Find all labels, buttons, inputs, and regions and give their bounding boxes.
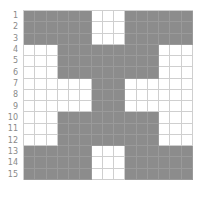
grid-cell-filled — [80, 112, 91, 123]
grid-cell-empty — [159, 45, 170, 56]
grid-cell-filled — [80, 157, 91, 168]
row-label: 7 — [0, 78, 20, 89]
grid-cell-empty — [69, 79, 80, 90]
grid-cell-empty — [35, 101, 46, 112]
grid-cell-empty — [47, 112, 58, 123]
grid-cell-empty — [159, 135, 170, 146]
grid-cell-filled — [182, 11, 193, 22]
grid-cell-filled — [125, 169, 136, 180]
grid-cell-empty — [24, 112, 35, 123]
grid-cell-empty — [24, 67, 35, 78]
grid-cell-filled — [182, 34, 193, 45]
grid-cell-filled — [69, 22, 80, 33]
row-label: 8 — [0, 89, 20, 100]
grid-cell-empty — [80, 79, 91, 90]
row-label: 12 — [0, 135, 20, 146]
grid-cell-filled — [80, 56, 91, 67]
grid-cell-filled — [80, 11, 91, 22]
grid-cell-filled — [80, 169, 91, 180]
grid-cell-filled — [80, 135, 91, 146]
grid-cell-empty — [92, 22, 103, 33]
grid-cell-filled — [114, 67, 125, 78]
grid-cell-filled — [103, 90, 114, 101]
grid-cell-filled — [47, 169, 58, 180]
grid-cell-filled — [35, 22, 46, 33]
grid-cell-empty — [182, 56, 193, 67]
row-label: 1 — [0, 10, 20, 21]
grid-cell-empty — [80, 90, 91, 101]
grid-cell-empty — [47, 79, 58, 90]
grid-cell-empty — [103, 157, 114, 168]
grid-cell-filled — [80, 146, 91, 157]
grid-cell-filled — [58, 112, 69, 123]
row-labels: 123456789101112131415 — [0, 10, 20, 180]
grid-cell-filled — [58, 45, 69, 56]
grid-cell-empty — [58, 101, 69, 112]
grid-cell-filled — [24, 146, 35, 157]
grid-cell-filled — [58, 135, 69, 146]
grid-cell-empty — [148, 90, 159, 101]
grid-cell-filled — [92, 45, 103, 56]
grid-cell-empty — [182, 90, 193, 101]
grid-cell-empty — [114, 169, 125, 180]
grid-cell-filled — [159, 146, 170, 157]
grid-cell-empty — [35, 79, 46, 90]
grid-cell-filled — [92, 112, 103, 123]
grid-cell-empty — [35, 45, 46, 56]
grid-cell-empty — [125, 101, 136, 112]
grid-cell-filled — [137, 34, 148, 45]
grid-cell-filled — [24, 11, 35, 22]
grid-cell-filled — [114, 112, 125, 123]
grid-cell-empty — [159, 112, 170, 123]
grid-cell-filled — [159, 169, 170, 180]
grid-cell-filled — [148, 146, 159, 157]
grid-cell-empty — [47, 90, 58, 101]
row-label: 13 — [0, 146, 20, 157]
grid-cell-empty — [182, 124, 193, 135]
grid-cell-filled — [24, 34, 35, 45]
grid-cell-filled — [92, 56, 103, 67]
grid-cell-filled — [137, 11, 148, 22]
grid-cell-filled — [103, 56, 114, 67]
grid-cell-filled — [148, 124, 159, 135]
grid-cell-filled — [47, 11, 58, 22]
grid-cell-empty — [35, 112, 46, 123]
grid-cell-filled — [148, 67, 159, 78]
grid-cell-filled — [148, 22, 159, 33]
grid-cell-filled — [58, 67, 69, 78]
grid-cell-empty — [159, 124, 170, 135]
grid-cell-empty — [35, 124, 46, 135]
grid-cell-empty — [182, 45, 193, 56]
grid-cell-empty — [47, 56, 58, 67]
grid-cell-filled — [148, 45, 159, 56]
grid-cell-empty — [24, 90, 35, 101]
grid-cell-empty — [80, 101, 91, 112]
grid-cell-empty — [92, 146, 103, 157]
grid-cell-filled — [69, 45, 80, 56]
grid-cell-empty — [170, 45, 181, 56]
grid-cell-empty — [92, 169, 103, 180]
grid-cell-filled — [24, 169, 35, 180]
grid-cell-filled — [103, 124, 114, 135]
grid-cell-empty — [24, 135, 35, 146]
grid-cell-filled — [170, 146, 181, 157]
grid-cell-filled — [35, 157, 46, 168]
grid-cell-filled — [114, 101, 125, 112]
row-label: 5 — [0, 55, 20, 66]
grid-cell-filled — [47, 22, 58, 33]
grid-cell-empty — [92, 11, 103, 22]
grid-cell-empty — [137, 90, 148, 101]
grid-cell-filled — [159, 11, 170, 22]
grid-cell-empty — [159, 56, 170, 67]
grid-cell-filled — [92, 90, 103, 101]
row-label: 2 — [0, 21, 20, 32]
grid-cell-filled — [80, 34, 91, 45]
grid-cell-empty — [92, 157, 103, 168]
grid-cell-empty — [69, 90, 80, 101]
grid-cell-filled — [170, 22, 181, 33]
grid-cell-filled — [35, 11, 46, 22]
grid-cell-filled — [69, 157, 80, 168]
grid-cell-filled — [182, 146, 193, 157]
grid-cell-empty — [159, 101, 170, 112]
grid-cell-filled — [24, 22, 35, 33]
